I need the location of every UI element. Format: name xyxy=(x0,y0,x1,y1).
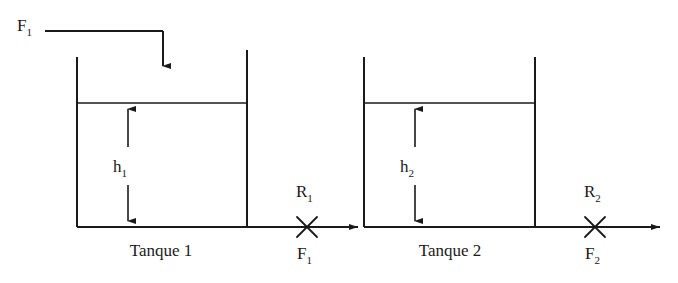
tank2-group xyxy=(364,57,535,227)
tank1-group xyxy=(77,50,247,227)
valve2-resistance-label: R2 xyxy=(584,182,601,204)
tank2-level-label: h2 xyxy=(400,157,414,179)
tank1-name-label: Tanque 1 xyxy=(130,241,193,260)
two-tank-process-diagram: F1 h1 Tanque 1 R1 F1 xyxy=(0,0,678,283)
tank2-name-label: Tanque 2 xyxy=(419,241,482,260)
tank1-level-label: h1 xyxy=(113,157,127,179)
process-diagram-canvas: F1 h1 Tanque 1 R1 F1 xyxy=(0,0,678,283)
valve1-flow-label: F1 xyxy=(297,244,312,266)
inlet-pipe-group xyxy=(45,31,163,66)
inlet-flow-label: F1 xyxy=(17,16,32,38)
valve1-resistance-label: R1 xyxy=(296,182,313,204)
valve2-flow-label: F2 xyxy=(585,244,600,266)
valve1-group xyxy=(247,217,358,237)
valve2-group xyxy=(535,217,660,237)
